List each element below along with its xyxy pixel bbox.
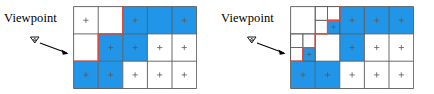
grid-cell-visible — [147, 7, 172, 34]
grid-cell-occluded — [74, 34, 99, 61]
subdivided-grid-panel: Viewpoint — [217, 0, 434, 94]
uniform-grid-panel: Viewpoint — [0, 0, 217, 94]
grid-subcell-occluded — [315, 7, 327, 21]
grid-subcell-occluded — [328, 7, 340, 21]
viewpoint-label-right: Viewpoint — [221, 11, 274, 26]
viewpoint-arrow-left — [18, 40, 78, 60]
grid-subcell-occluded — [291, 34, 303, 48]
grid-subcell-occluded — [291, 48, 303, 62]
grid-cell-occluded — [291, 7, 316, 34]
viewpoint-arrow-right — [235, 40, 295, 60]
visibility-grid-right — [290, 6, 414, 89]
viewpoint-label-left: Viewpoint — [4, 11, 57, 26]
figure-container: Viewpoint Viewpoint — [0, 0, 434, 94]
grid-subcell-occluded — [303, 34, 315, 48]
arrow-right-icon — [257, 43, 286, 55]
grid-cell-occluded — [98, 7, 123, 34]
arrow-right-icon — [40, 43, 69, 55]
visibility-grid-left — [73, 6, 197, 89]
grid-subcell-occluded — [315, 20, 327, 34]
